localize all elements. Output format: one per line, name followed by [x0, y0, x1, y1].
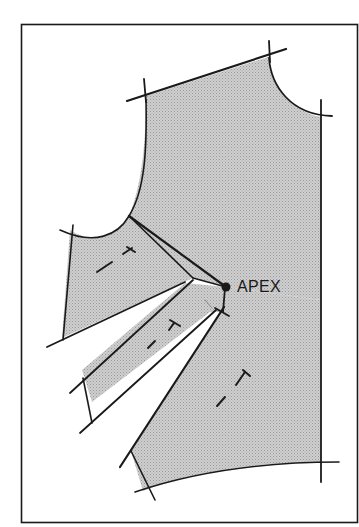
shoulder-tick-left: [144, 79, 146, 102]
apex-label: APEX: [237, 278, 281, 296]
bodice-pattern-diagram: [0, 0, 359, 527]
apex-point: [222, 283, 231, 292]
